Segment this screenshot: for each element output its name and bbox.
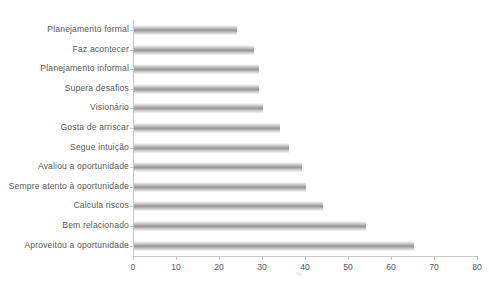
bar-row: Avaliou a oportunidade [0,158,489,177]
x-axis-tick [434,256,435,260]
category-label: Faz acontecer [0,44,129,54]
bar [134,123,280,133]
y-axis-tick [130,50,133,51]
y-axis-tick [130,167,133,168]
y-axis-tick [130,30,133,31]
bar [134,64,259,74]
x-axis-tick-label: 60 [378,262,404,272]
bar [134,103,263,113]
x-axis-tick [262,256,263,260]
x-axis-tick-label: 20 [206,262,232,272]
category-label: Supera desafios [0,83,129,93]
bar-row: Bem relacionado [0,217,489,236]
x-axis-tick-label: 0 [120,262,146,272]
category-label: Planejamento formal [0,24,129,34]
x-axis-tick [133,256,134,260]
bar [134,84,259,94]
x-axis-tick [219,256,220,260]
x-axis-tick [176,256,177,260]
bar-row: Supera desafios [0,80,489,99]
bar-row: Sempre atento à oportunidade [0,178,489,197]
x-axis-tick [477,256,478,260]
y-axis-tick [130,148,133,149]
bar [134,45,254,55]
y-axis-tick [130,89,133,90]
bar [134,201,323,211]
x-axis-tick-label: 30 [249,262,275,272]
bar-row: Calcula riscos [0,197,489,216]
category-label: Calcula riscos [0,200,129,210]
bar [134,25,237,35]
category-label: Gosta de arriscar [0,122,129,132]
category-label: Bem relacionado [0,220,129,230]
category-label: Avaliou a oportunidade [0,161,129,171]
y-axis-tick [130,69,133,70]
y-axis-tick [130,206,133,207]
x-axis-tick-label: 70 [421,262,447,272]
x-axis-tick [348,256,349,260]
bar-row: Faz acontecer [0,41,489,60]
y-axis-tick [130,108,133,109]
bar-row: Visionário [0,99,489,118]
bar [134,162,302,172]
x-axis-tick-label: 80 [464,262,489,272]
x-axis-tick [391,256,392,260]
category-label: Segue intuição [0,142,129,152]
category-label: Visionário [0,102,129,112]
bar [134,143,289,153]
category-label: Sempre atento à oportunidade [0,181,129,191]
x-axis-title: % [286,271,312,277]
x-axis-tick-label: 10 [163,262,189,272]
bar [134,221,366,231]
y-axis-tick [130,246,133,247]
bar-row: Gosta de arriscar [0,119,489,138]
bar-row: Aproveitou a oportunidade [0,237,489,256]
x-axis-tick [305,256,306,260]
y-axis-tick [130,226,133,227]
bar-chart-plot: Planejamento formalFaz acontecerPlanejam… [0,0,489,295]
bar [134,182,306,192]
category-label: Aproveitou a oportunidade [0,240,129,250]
y-axis-tick [130,187,133,188]
y-axis-tick [130,128,133,129]
bar-row: Segue intuição [0,139,489,158]
x-axis-tick-label: 50 [335,262,361,272]
bar [134,241,414,251]
category-label: Planejamento informal [0,63,129,73]
bar-row: Planejamento informal [0,60,489,79]
bar-row: Planejamento formal [0,21,489,40]
